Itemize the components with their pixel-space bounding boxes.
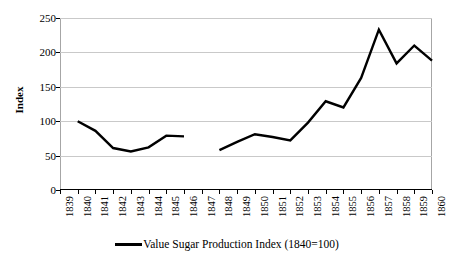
chart-figure: Index 050100150200250 183918401841184218… xyxy=(0,0,454,262)
x-axis-tickmark-1839 xyxy=(60,190,61,194)
x-axis-tickmark-1855 xyxy=(343,190,344,194)
y-axis-tick-250: 250 xyxy=(26,12,56,24)
x-axis-tick-1849: 1849 xyxy=(241,196,252,217)
x-axis-tick-1839: 1839 xyxy=(64,196,75,217)
x-axis-tickmark-1857 xyxy=(379,190,380,194)
x-axis-tick-1844: 1844 xyxy=(153,196,164,217)
y-axis-tickmark-250 xyxy=(56,18,60,19)
x-axis-tickmark-1858 xyxy=(397,190,398,194)
x-axis-tickmark-1848 xyxy=(219,190,220,194)
x-axis-tick-1859: 1859 xyxy=(418,196,429,217)
y-axis-tick-100: 100 xyxy=(26,115,56,127)
series-segment-0-2 xyxy=(219,30,432,150)
y-axis-tickmark-50 xyxy=(56,156,60,157)
y-axis-tickmark-100 xyxy=(56,121,60,122)
x-axis-tickmark-1844 xyxy=(149,190,150,194)
x-axis-tick-labels: 1839184018411842184318441845184618471848… xyxy=(60,190,432,240)
x-axis-tickmark-1853 xyxy=(308,190,309,194)
x-axis-tick-1850: 1850 xyxy=(259,196,270,217)
x-axis-tickmark-1841 xyxy=(95,190,96,194)
x-axis-tickmark-1843 xyxy=(131,190,132,194)
series-segment-0-1 xyxy=(78,121,184,151)
legend-line-swatch xyxy=(115,243,142,246)
y-axis-tickmark-0 xyxy=(56,190,60,191)
x-axis-tick-1843: 1843 xyxy=(135,196,146,217)
x-axis-tick-1856: 1856 xyxy=(365,196,376,217)
x-axis-tickmark-1856 xyxy=(361,190,362,194)
x-axis-tick-1860: 1860 xyxy=(436,196,447,217)
x-axis-tick-1847: 1847 xyxy=(206,196,217,217)
y-axis-tick-200: 200 xyxy=(26,46,56,58)
x-axis-tick-1840: 1840 xyxy=(82,196,93,217)
x-axis-tick-1848: 1848 xyxy=(223,196,234,217)
x-axis-tickmark-1851 xyxy=(273,190,274,194)
x-axis-tick-1845: 1845 xyxy=(170,196,181,217)
x-axis-tick-1851: 1851 xyxy=(277,196,288,217)
series-line-value-sugar-production-index xyxy=(60,18,432,190)
x-axis-tick-1855: 1855 xyxy=(347,196,358,217)
x-axis-tickmark-1854 xyxy=(326,190,327,194)
x-axis-tick-1857: 1857 xyxy=(383,196,394,217)
x-axis-tick-1852: 1852 xyxy=(294,196,305,217)
y-axis-tick-150: 150 xyxy=(26,81,56,93)
x-axis-tickmark-1859 xyxy=(414,190,415,194)
y-axis-tick-50: 50 xyxy=(26,150,56,162)
x-axis-tickmark-1849 xyxy=(237,190,238,194)
x-axis-tick-1846: 1846 xyxy=(188,196,199,217)
y-axis-tick-labels: 050100150200250 xyxy=(22,0,56,262)
y-axis-tickmark-200 xyxy=(56,52,60,53)
y-axis-tick-0: 0 xyxy=(26,184,56,196)
x-axis-tickmark-1845 xyxy=(166,190,167,194)
x-axis-tickmark-1842 xyxy=(113,190,114,194)
x-axis-tick-1854: 1854 xyxy=(330,196,341,217)
x-axis-tickmark-1847 xyxy=(202,190,203,194)
x-axis-tick-1841: 1841 xyxy=(99,196,110,217)
x-axis-tickmark-1846 xyxy=(184,190,185,194)
x-axis-tickmark-1852 xyxy=(290,190,291,194)
plot-area xyxy=(60,18,432,190)
x-axis-tick-1842: 1842 xyxy=(117,196,128,217)
x-axis-tickmark-1840 xyxy=(78,190,79,194)
chart-legend: Value Sugar Production Index (1840=100) xyxy=(0,238,454,250)
x-axis-tick-1853: 1853 xyxy=(312,196,323,217)
y-axis-tickmark-150 xyxy=(56,87,60,88)
x-axis-tickmark-1850 xyxy=(255,190,256,194)
x-axis-tickmark-1860 xyxy=(432,190,433,194)
x-axis-tick-1858: 1858 xyxy=(401,196,412,217)
legend-item-label: Value Sugar Production Index (1840=100) xyxy=(143,238,339,250)
